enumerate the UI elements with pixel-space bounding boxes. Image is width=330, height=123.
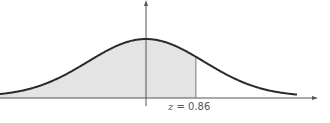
z-value-label: z = 0.86: [168, 101, 210, 112]
x-axis-arrow-icon: [312, 96, 318, 100]
normal-distribution-chart: [0, 0, 330, 123]
z-value: = 0.86: [173, 101, 210, 112]
y-axis-arrow-icon: [144, 0, 148, 6]
